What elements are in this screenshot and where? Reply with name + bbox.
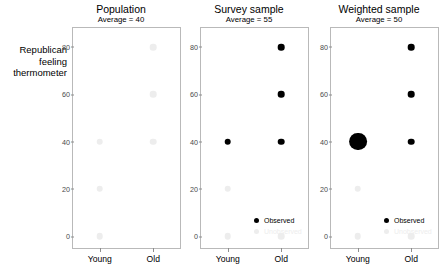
x-axis-tick bbox=[228, 248, 229, 252]
data-point-observed bbox=[408, 44, 415, 51]
data-point-unobserved bbox=[224, 186, 231, 193]
y-axis-tick: 0 bbox=[194, 232, 201, 241]
panel-title: Population bbox=[60, 3, 182, 15]
legend: ObservedUnobserved bbox=[253, 215, 315, 237]
x-axis-tick-label: Old bbox=[147, 254, 160, 264]
legend-swatch-dot-icon bbox=[384, 229, 389, 234]
data-point-unobserved bbox=[150, 91, 157, 98]
legend-swatch-dot-icon bbox=[254, 218, 259, 223]
y-axis-label: Republican feeling thermometer bbox=[0, 44, 67, 79]
x-axis-tick bbox=[153, 248, 154, 252]
legend-item: Observed bbox=[253, 215, 315, 226]
y-axis-tick: 0 bbox=[324, 232, 331, 241]
data-point-unobserved bbox=[96, 138, 103, 145]
data-point-observed bbox=[349, 133, 367, 151]
y-axis-tick: 20 bbox=[62, 184, 73, 193]
legend-item: Observed bbox=[383, 215, 445, 226]
x-axis-tick bbox=[100, 248, 101, 252]
panel-weighted-sample: Weighted sample Average = 50 020406080Yo… bbox=[318, 0, 440, 269]
x-axis-tick-label: Old bbox=[275, 254, 288, 264]
data-point-unobserved bbox=[224, 233, 231, 240]
data-point-unobserved bbox=[150, 44, 157, 51]
y-axis-tick: 80 bbox=[190, 42, 201, 51]
panel-subtitle: Average = 50 bbox=[318, 15, 440, 24]
y-axis-tick: 40 bbox=[62, 137, 73, 146]
legend-label: Unobserved bbox=[394, 228, 432, 235]
panel-title: Survey sample bbox=[188, 3, 310, 15]
y-axis-tick: 80 bbox=[320, 42, 331, 51]
legend-label: Observed bbox=[394, 217, 424, 224]
data-point-unobserved bbox=[96, 186, 103, 193]
panel-survey-sample: Survey sample Average = 55 020406080Youn… bbox=[188, 0, 310, 269]
plot-area: 020406080YoungOldObservedUnobserved bbox=[200, 27, 309, 249]
data-point-unobserved bbox=[354, 233, 361, 240]
x-axis-tick-label: Young bbox=[346, 254, 370, 264]
x-axis-tick-label: Young bbox=[216, 254, 240, 264]
data-point-observed bbox=[408, 138, 415, 145]
plot-area: 020406080YoungOldObservedUnobserved bbox=[330, 27, 439, 249]
y-axis-tick: 60 bbox=[190, 90, 201, 99]
y-axis-tick: 20 bbox=[190, 184, 201, 193]
legend: ObservedUnobserved bbox=[383, 215, 445, 237]
legend-label: Unobserved bbox=[264, 228, 302, 235]
y-axis-tick: 60 bbox=[320, 90, 331, 99]
plot-area: 020406080YoungOld bbox=[72, 27, 181, 249]
x-axis-tick bbox=[358, 248, 359, 252]
x-axis-tick-label: Old bbox=[405, 254, 418, 264]
legend-label: Observed bbox=[264, 217, 294, 224]
x-axis-tick bbox=[411, 248, 412, 252]
panel-subtitle: Average = 55 bbox=[188, 15, 310, 24]
legend-item: Unobserved bbox=[253, 226, 315, 237]
panel-title: Weighted sample bbox=[318, 3, 440, 15]
data-point-observed bbox=[408, 91, 415, 98]
data-point-unobserved bbox=[354, 186, 361, 193]
panel-population: Population Average = 40 020406080YoungOl… bbox=[60, 0, 182, 269]
panel-subtitle: Average = 40 bbox=[60, 15, 182, 24]
y-axis-tick: 40 bbox=[320, 137, 331, 146]
data-point-observed bbox=[278, 138, 285, 145]
data-point-observed bbox=[278, 91, 285, 98]
data-point-observed bbox=[224, 138, 231, 145]
legend-item: Unobserved bbox=[383, 226, 445, 237]
legend-swatch-dot-icon bbox=[254, 229, 259, 234]
data-point-observed bbox=[278, 44, 285, 51]
data-point-unobserved bbox=[96, 233, 103, 240]
y-axis-tick: 80 bbox=[62, 42, 73, 51]
y-axis-tick: 40 bbox=[190, 137, 201, 146]
y-axis-tick: 0 bbox=[66, 232, 73, 241]
y-axis-tick: 60 bbox=[62, 90, 73, 99]
legend-swatch-dot-icon bbox=[384, 218, 389, 223]
figure: Republican feeling thermometer Populatio… bbox=[0, 0, 447, 269]
data-point-unobserved bbox=[150, 138, 157, 145]
x-axis-tick-label: Young bbox=[88, 254, 112, 264]
y-axis-tick: 20 bbox=[320, 184, 331, 193]
x-axis-tick bbox=[281, 248, 282, 252]
